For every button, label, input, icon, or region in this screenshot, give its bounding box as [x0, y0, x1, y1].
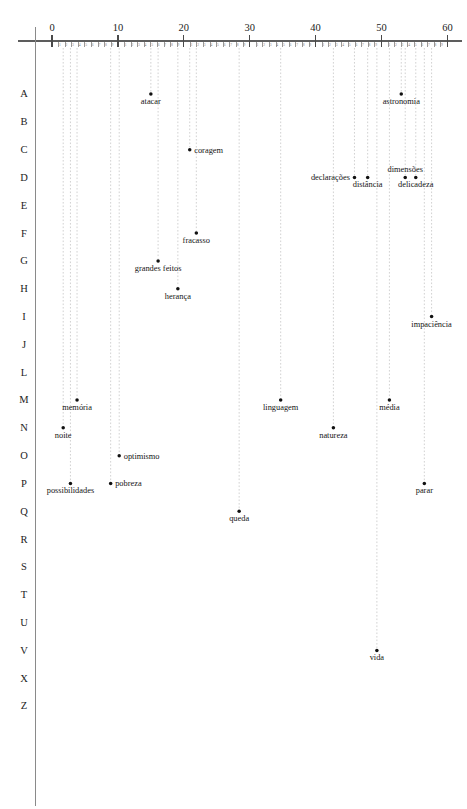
- point-dot[interactable]: [188, 148, 192, 152]
- x-tick-minor-label: 6: [290, 43, 292, 47]
- point-dot[interactable]: [279, 398, 283, 402]
- x-tick-minor-label: 4: [408, 43, 410, 47]
- x-tick-minor-label: 4: [210, 43, 212, 47]
- x-tick-minor-label: 4: [276, 43, 278, 47]
- x-tick-label: 20: [179, 22, 190, 33]
- point-dot[interactable]: [430, 315, 434, 319]
- data-point[interactable]: vida: [370, 649, 385, 663]
- point-dot[interactable]: [400, 92, 404, 96]
- x-tick-minor-label: 7: [164, 43, 166, 47]
- point-dot[interactable]: [149, 92, 153, 96]
- data-point[interactable]: natureza: [319, 426, 348, 440]
- x-tick-minor-label: 1: [322, 43, 324, 47]
- point-label: natureza: [319, 431, 348, 440]
- x-tick-minor-label: 4: [342, 43, 344, 47]
- data-point[interactable]: coragem: [188, 146, 224, 155]
- data-point[interactable]: parar: [416, 482, 433, 496]
- row-label-g: G: [20, 255, 28, 266]
- point-dot[interactable]: [332, 426, 336, 430]
- data-point[interactable]: possibilidades: [47, 482, 94, 496]
- data-point[interactable]: linguagem: [263, 398, 299, 412]
- point-dot[interactable]: [195, 231, 199, 235]
- x-tick-label: 30: [244, 22, 255, 33]
- row-label-t: T: [21, 589, 28, 600]
- x-tick-minor-label: 5: [151, 43, 153, 47]
- data-point[interactable]: impaciência: [411, 315, 452, 329]
- row-label-f: F: [21, 228, 27, 239]
- data-point[interactable]: memória: [62, 398, 92, 412]
- point-dot[interactable]: [388, 398, 392, 402]
- x-tick-label: 50: [376, 22, 387, 33]
- point-dot[interactable]: [237, 510, 241, 514]
- x-tick-minor-label: 6: [158, 43, 160, 47]
- x-tick-minor-label: 1: [191, 43, 193, 47]
- x-tick-minor-label: 7: [230, 43, 232, 47]
- x-tick-minor-label: 3: [336, 43, 338, 47]
- row-label-x: X: [20, 673, 28, 684]
- point-label: pobreza: [115, 479, 142, 488]
- point-dot[interactable]: [176, 287, 180, 291]
- point-dot[interactable]: [366, 176, 370, 180]
- x-tick-minor-label: 5: [349, 43, 351, 47]
- x-tick-minor-label: 1: [125, 43, 127, 47]
- x-tick-minor-label: 2: [197, 43, 199, 47]
- data-point[interactable]: herança: [165, 287, 191, 301]
- point-dot[interactable]: [375, 649, 379, 653]
- point-dot[interactable]: [423, 482, 427, 486]
- row-label-n: N: [20, 422, 28, 433]
- x-tick-minor-label: 5: [217, 43, 219, 47]
- row-label-a: A: [20, 88, 28, 99]
- data-point[interactable]: astronomia: [383, 92, 420, 106]
- data-point[interactable]: pobreza: [109, 479, 142, 488]
- point-dot[interactable]: [414, 176, 418, 180]
- row-label-d: D: [20, 172, 28, 183]
- point-dot[interactable]: [61, 426, 65, 430]
- data-point[interactable]: distância: [353, 176, 383, 190]
- x-tick-minor-label: 6: [421, 43, 423, 47]
- point-dot[interactable]: [156, 259, 160, 263]
- x-tick-minor-label: 6: [224, 43, 226, 47]
- row-label-i: I: [22, 311, 26, 322]
- x-tick-minor-label: 5: [283, 43, 285, 47]
- point-label: memória: [62, 403, 92, 412]
- row-label-o: O: [20, 450, 28, 461]
- data-point[interactable]: grandes feitos: [135, 259, 182, 273]
- point-label: astronomia: [383, 97, 420, 106]
- x-tick-minor-label: 8: [369, 43, 371, 47]
- data-point[interactable]: dimensões: [388, 165, 423, 179]
- point-dot[interactable]: [353, 176, 357, 180]
- x-tick-minor-label: 4: [79, 43, 81, 47]
- x-tick-minor-label: 5: [85, 43, 87, 47]
- x-tick-minor-label: 8: [237, 43, 239, 47]
- data-point[interactable]: optimismo: [117, 452, 159, 461]
- point-label: delicadeza: [398, 180, 434, 189]
- point-label: queda: [229, 514, 249, 523]
- x-tick-minor-label: 9: [243, 43, 245, 47]
- x-tick-label: 10: [113, 22, 124, 33]
- x-tick-minor-label: 4: [145, 43, 147, 47]
- point-dot[interactable]: [117, 454, 121, 458]
- point-label: coragem: [194, 146, 223, 155]
- data-point[interactable]: delicadeza: [398, 176, 434, 190]
- point-label: grandes feitos: [135, 264, 182, 273]
- data-point[interactable]: fracasso: [183, 231, 210, 245]
- data-point[interactable]: noite: [55, 426, 72, 440]
- chart-canvas: 0123456789101234567892012345678930123456…: [0, 0, 467, 809]
- row-label-q: Q: [20, 506, 28, 517]
- data-point[interactable]: média: [379, 398, 400, 412]
- row-label-m: M: [19, 394, 29, 405]
- data-point[interactable]: queda: [229, 510, 249, 524]
- data-point[interactable]: declarações: [311, 173, 356, 182]
- x-tick-minor-label: 9: [178, 43, 180, 47]
- point-label: média: [379, 403, 400, 412]
- point-dot[interactable]: [75, 398, 79, 402]
- row-label-s: S: [21, 561, 27, 572]
- x-tick-minor-label: 8: [105, 43, 107, 47]
- point-dot[interactable]: [403, 176, 407, 180]
- x-tick-minor-label: 1: [388, 43, 390, 47]
- row-label-j: J: [22, 339, 26, 350]
- point-dot[interactable]: [109, 482, 113, 486]
- x-tick-minor-label: 2: [263, 43, 265, 47]
- point-label: possibilidades: [47, 486, 94, 495]
- point-dot[interactable]: [69, 482, 73, 486]
